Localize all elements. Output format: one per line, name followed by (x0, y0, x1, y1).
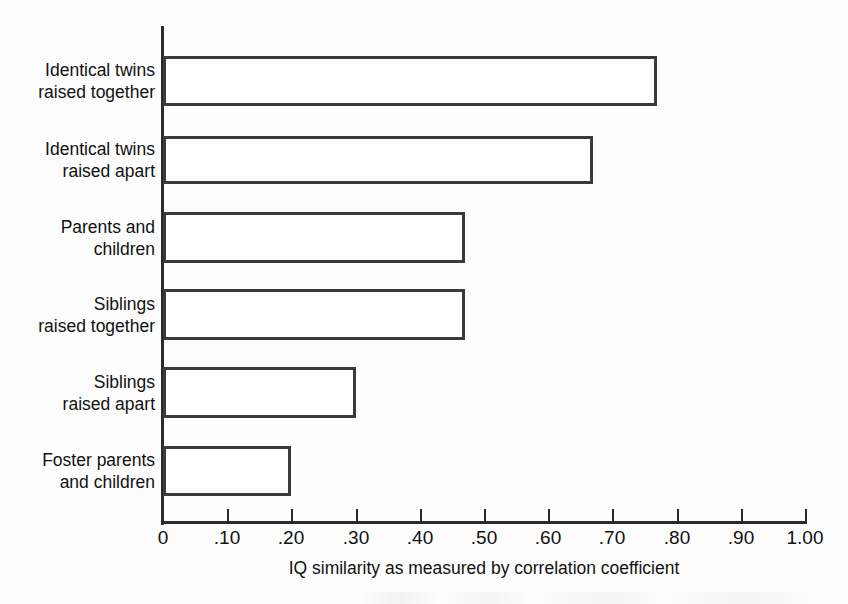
x-axis-tick (227, 509, 229, 522)
scan-artifact (0, 592, 848, 604)
category-label: Identical twins raised apart (0, 138, 155, 182)
bar (163, 289, 465, 340)
x-axis-tick (484, 509, 486, 522)
x-axis-tick-label: .80 (664, 527, 690, 549)
x-axis-tick-label: .90 (728, 527, 754, 549)
x-axis-tick-label: .60 (535, 527, 561, 549)
bar (163, 136, 593, 184)
x-axis-tick-label: .20 (278, 527, 304, 549)
plot-area: Identical twins raised togetherIdentical… (0, 0, 848, 604)
x-axis-tick-label: .10 (214, 527, 240, 549)
category-label: Siblings raised together (0, 293, 155, 337)
x-axis-tick (805, 509, 807, 522)
x-axis-tick-label: 0 (158, 527, 169, 549)
x-axis-tick-label: .30 (343, 527, 369, 549)
bar (163, 367, 356, 418)
x-axis-title: IQ similarity as measured by correlation… (161, 557, 807, 579)
x-axis-tick (612, 509, 614, 522)
bar (163, 446, 291, 496)
bar (163, 56, 657, 106)
category-label: Foster parents and children (0, 449, 155, 493)
x-axis-tick-label: 1.00 (787, 527, 824, 549)
x-axis-tick-label: .50 (471, 527, 497, 549)
x-axis-tick (741, 509, 743, 522)
bar (163, 212, 465, 263)
iq-similarity-bar-chart: Identical twins raised togetherIdentical… (0, 0, 848, 604)
category-label: Identical twins raised together (0, 59, 155, 103)
x-axis-tick (356, 509, 358, 522)
x-axis-tick (677, 509, 679, 522)
category-label: Siblings raised apart (0, 371, 155, 415)
category-label: Parents and children (0, 216, 155, 260)
x-axis-tick-label: .70 (599, 527, 625, 549)
x-axis-tick (548, 509, 550, 522)
x-axis-tick-label: .40 (407, 527, 433, 549)
x-axis-tick (420, 509, 422, 522)
x-axis-tick (291, 509, 293, 522)
